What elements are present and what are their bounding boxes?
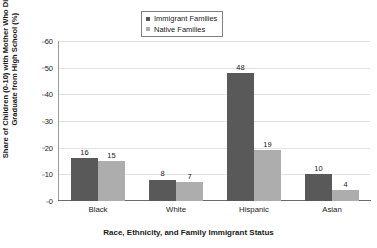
- y-tick-label: 10: [45, 170, 53, 179]
- chart-legend: Immigrant Families Native Families: [141, 11, 223, 37]
- legend-swatch-icon-immigrant: [146, 17, 150, 21]
- bar-group: 1615: [59, 41, 137, 201]
- bar[interactable]: [149, 180, 176, 201]
- bar-value-label: 19: [254, 141, 281, 149]
- y-tick-label: 50: [45, 63, 53, 72]
- bar[interactable]: [71, 158, 98, 201]
- bar-slot: 15: [98, 41, 125, 201]
- x-category-label: Hispanic: [215, 205, 293, 214]
- bar-chart-figure: Immigrant Families Native Families Share…: [0, 0, 377, 248]
- y-axis-title-line-2: Graduate from High School (%): [10, 0, 19, 167]
- bar-value-label: 48: [227, 64, 254, 72]
- legend-label-native-families: Native Families: [154, 26, 205, 34]
- bar-slot: 10: [305, 41, 332, 201]
- bar[interactable]: [254, 150, 281, 201]
- legend-entry-native-families: Native Families: [146, 26, 217, 34]
- y-axis-title: Share of Children (0-10) with Mother Who…: [1, 0, 20, 167]
- bar-slot: 16: [71, 41, 98, 201]
- y-axis-tick-labels: 0102030405060: [30, 41, 53, 201]
- x-axis-category-labels: BlackWhiteHispanicAsian: [59, 205, 371, 214]
- bar-slot: 8: [149, 41, 176, 201]
- bar[interactable]: [176, 182, 203, 201]
- bar-value-label: 10: [305, 165, 332, 173]
- bar-group: 104: [293, 41, 371, 201]
- bar-value-label: 7: [176, 173, 203, 181]
- bar-group: 4819: [215, 41, 293, 201]
- bar[interactable]: [332, 190, 359, 201]
- gridline: [58, 201, 370, 202]
- bar[interactable]: [98, 161, 125, 201]
- y-tick-mark: [42, 41, 45, 42]
- bar-slot: 7: [176, 41, 203, 201]
- y-tick-label: 0: [49, 197, 53, 206]
- bar-value-label: 4: [332, 181, 359, 189]
- bar-group: 87: [137, 41, 215, 201]
- y-tick-mark: [42, 94, 45, 95]
- legend-entry-immigrant-families: Immigrant Families: [146, 15, 217, 23]
- y-tick-mark: [42, 174, 45, 175]
- y-tick-label: 30: [45, 117, 53, 126]
- x-category-label: Asian: [293, 205, 371, 214]
- y-tick-mark: [42, 68, 45, 69]
- y-tick-label: 20: [45, 143, 53, 152]
- y-tick-mark: [46, 201, 49, 202]
- y-tick-label: 60: [45, 37, 53, 46]
- y-tick-mark: [42, 121, 45, 122]
- bar-slot: 19: [254, 41, 281, 201]
- x-axis-title: Race, Ethnicity, and Family Immigrant St…: [0, 228, 377, 237]
- bar-value-label: 8: [149, 170, 176, 178]
- bar[interactable]: [227, 73, 254, 201]
- bar-value-label: 15: [98, 152, 125, 160]
- y-tick-label: 40: [45, 90, 53, 99]
- bar[interactable]: [305, 174, 332, 201]
- legend-swatch-icon-native: [146, 27, 150, 31]
- y-axis-title-line-1: Share of Children (0-10) with Mother Who…: [1, 0, 10, 167]
- bar-slot: 48: [227, 41, 254, 201]
- bar-value-label: 16: [71, 149, 98, 157]
- bar-slot: 4: [332, 41, 359, 201]
- legend-label-immigrant-families: Immigrant Families: [154, 15, 217, 23]
- y-tick-mark: [42, 148, 45, 149]
- bar-groups: 1615874819104: [59, 41, 371, 201]
- x-category-label: White: [137, 205, 215, 214]
- x-category-label: Black: [59, 205, 137, 214]
